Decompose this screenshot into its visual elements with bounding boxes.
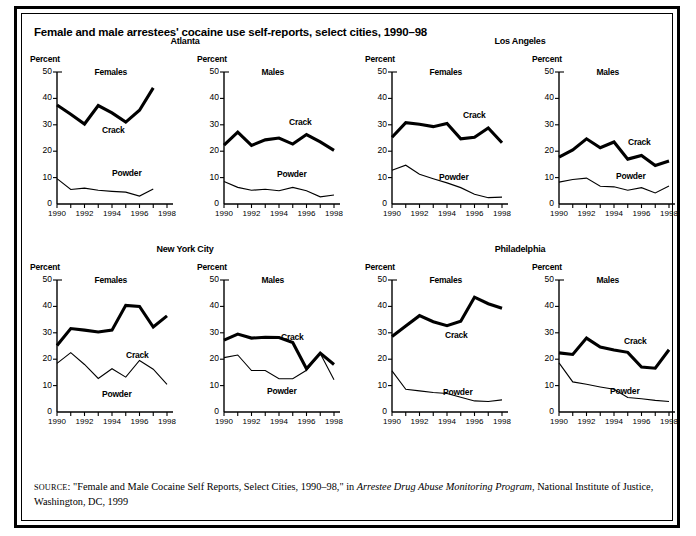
series-annotation-crack: Crack xyxy=(126,350,149,360)
chart-panel-atlanta-males: PercentMales0102030405019901992199419961… xyxy=(197,54,354,226)
series-annotation-powder: Powder xyxy=(443,387,473,397)
source-text-before: : "Female and Male Cocaine Self Reports,… xyxy=(68,481,357,492)
city-group-label-atlanta: Atlanta xyxy=(30,36,340,46)
series-line-crack xyxy=(57,305,167,345)
plot-area xyxy=(365,54,522,226)
series-annotation-powder: Powder xyxy=(610,386,640,396)
plot-area xyxy=(197,262,354,434)
series-line-powder xyxy=(224,353,334,379)
series-annotation-crack: Crack xyxy=(463,110,486,120)
series-line-crack xyxy=(559,139,669,166)
series-annotation-powder: Powder xyxy=(112,168,142,178)
chart-panel-los-angeles-females: PercentFemales01020304050199019921994199… xyxy=(365,54,522,226)
series-line-crack xyxy=(224,132,334,150)
series-line-crack xyxy=(559,338,669,368)
source-note: SOURCE: "Female and Male Cocaine Self Re… xyxy=(34,480,664,509)
series-line-powder xyxy=(559,178,669,193)
source-prefix: SOURCE xyxy=(34,483,68,492)
source-publication: Arrestee Drug Abuse Monitoring Program xyxy=(357,481,532,492)
series-annotation-powder: Powder xyxy=(267,386,297,396)
series-annotation-crack: Crack xyxy=(281,332,304,342)
plot-area xyxy=(365,262,522,434)
plot-area xyxy=(30,262,187,434)
series-annotation-crack: Crack xyxy=(445,330,468,340)
figure-frame: Female and male arrestees' cocaine use s… xyxy=(14,6,680,528)
series-line-crack xyxy=(392,123,502,143)
chart-panel-philadelphia-males: PercentMales0102030405019901992199419961… xyxy=(532,262,689,434)
series-annotation-crack: Crack xyxy=(624,336,647,346)
series-annotation-crack: Crack xyxy=(102,125,125,135)
plot-area xyxy=(532,54,689,226)
series-annotation-crack: Crack xyxy=(628,137,651,147)
chart-panel-new-york-city-males: PercentMales0102030405019901992199419961… xyxy=(197,262,354,434)
plot-area xyxy=(197,54,354,226)
series-line-powder xyxy=(57,179,153,196)
figure-inner-frame: Female and male arrestees' cocaine use s… xyxy=(21,13,673,521)
series-annotation-powder: Powder xyxy=(102,389,132,399)
city-group-label-philadelphia: Philadelphia xyxy=(365,244,675,254)
series-annotation-powder: Powder xyxy=(439,172,469,182)
series-line-crack xyxy=(57,88,153,124)
series-annotation-powder: Powder xyxy=(277,169,307,179)
city-group-label-los-angeles: Los Angeles xyxy=(365,36,675,46)
chart-panel-atlanta-females: PercentFemales01020304050199019921994199… xyxy=(30,54,187,226)
chart-panel-new-york-city-females: PercentFemales01020304050199019921994199… xyxy=(30,262,187,434)
chart-panel-los-angeles-males: PercentMales0102030405019901992199419961… xyxy=(532,54,689,226)
series-line-powder xyxy=(224,182,334,197)
city-group-label-new-york-city: New York City xyxy=(30,244,340,254)
series-annotation-powder: Powder xyxy=(616,171,646,181)
plot-area xyxy=(30,54,187,226)
chart-panel-philadelphia-females: PercentFemales01020304050199019921994199… xyxy=(365,262,522,434)
series-line-powder xyxy=(57,353,167,385)
series-line-crack xyxy=(224,334,334,369)
series-annotation-crack: Crack xyxy=(289,117,312,127)
plot-area xyxy=(532,262,689,434)
